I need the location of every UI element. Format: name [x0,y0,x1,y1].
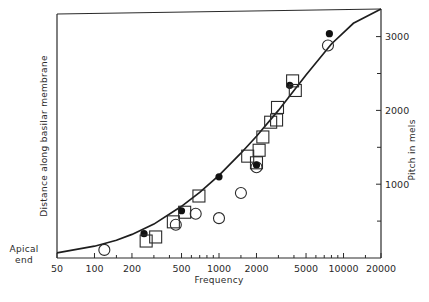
open-circle-marker [99,244,110,255]
open-square-marker [140,235,152,247]
y-tick-label: 1000 [385,179,409,190]
filled-circle-marker [140,230,147,237]
left-axis-title: Distance along basilar membrane [39,55,49,217]
open-circle-marker [190,208,201,219]
apical-label: Apical [9,244,38,254]
x-tick-label: 20000 [366,263,396,274]
open-circle-marker [235,188,246,199]
right-axis-title: Pitch in mels [407,119,417,180]
right-axis-ticks [376,37,381,222]
x-tick-label: 10000 [328,263,358,274]
x-axis-title: Frequency [194,275,244,285]
right-axis-tick-labels: 100020003000 [385,31,409,190]
x-tick-label: 50 [51,263,63,274]
x-tick-label: 500 [172,263,190,274]
x-tick-label: 100 [85,263,103,274]
open-circle-marker [214,213,225,224]
top-frame-line [57,9,381,14]
end-label: end [15,255,33,265]
x-tick-label: 5000 [294,263,318,274]
open-square-marker [167,216,179,228]
x-tick-label: 1000 [207,263,231,274]
mel-curve [57,9,381,253]
x-tick-label: 200 [123,263,141,274]
data-markers [99,30,334,255]
open-square-marker [242,150,254,162]
filled-circle-marker [326,30,333,37]
x-tick-label: 2000 [244,263,268,274]
x-axis-tick-labels: 501002005001000200050001000020000 [51,263,396,274]
plot-frame [57,9,381,258]
open-square-marker [253,144,265,156]
y-tick-label: 2000 [385,105,409,116]
mel-scale-chart: 501002005001000200050001000020000 100020… [0,0,429,302]
open-square-marker [150,231,162,243]
filled-circle-marker [215,173,222,180]
y-tick-label: 3000 [385,31,409,42]
